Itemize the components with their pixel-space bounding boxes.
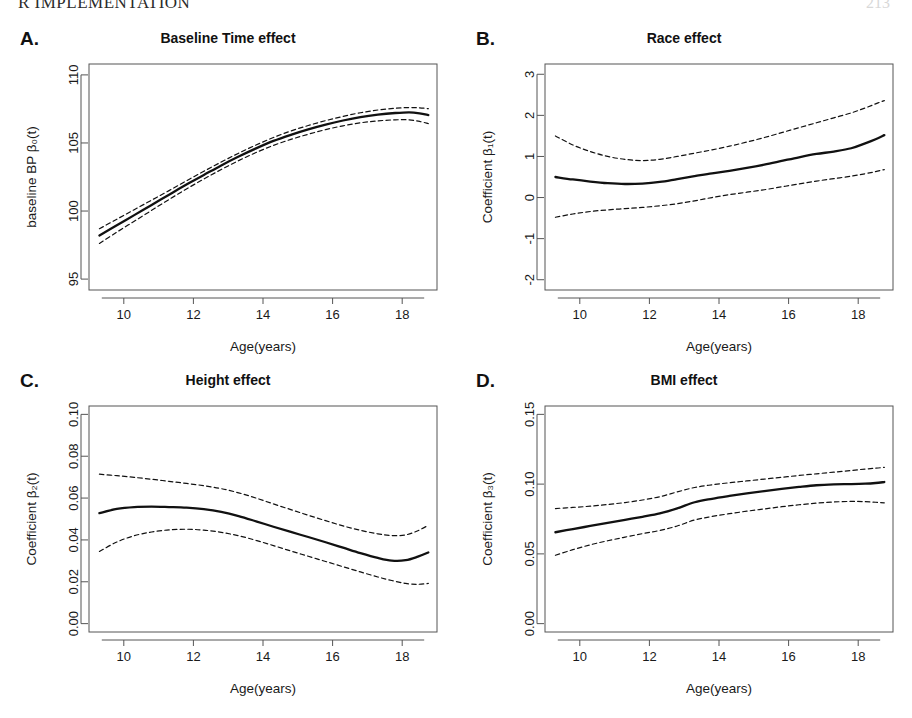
y-axis-tick-label: -2 (523, 274, 538, 286)
y-axis-tick-label: 0.05 (523, 541, 538, 566)
x-axis-tick-label: 12 (186, 649, 200, 664)
chart-panel-a: A. Baseline Time effect 9510010511010121… (0, 26, 456, 366)
x-axis-tick-label: 18 (395, 307, 409, 322)
y-axis-tick-label: 0.04 (67, 527, 82, 552)
series-lower-95 (555, 170, 884, 218)
y-axis-tick-label: -1 (523, 233, 538, 245)
series-lower-95 (99, 529, 428, 584)
series-lower-95 (555, 501, 884, 555)
chart-panel-d: D. BMI effect 0.000.050.100.151012141618… (456, 368, 912, 708)
x-axis-tick-label: 16 (325, 307, 339, 322)
chart-panel-c: C. Height effect 0.000.020.040.060.080.1… (0, 368, 456, 708)
x-axis-tick-label: 18 (395, 649, 409, 664)
x-axis-title: Age(years) (230, 339, 296, 354)
y-axis-tick-label: 0 (523, 194, 538, 201)
y-axis-tick-label: 0.15 (523, 402, 538, 427)
plot-area: 951001051101012141618Age(years)baseline … (0, 26, 456, 366)
x-axis-tick-label: 10 (117, 307, 131, 322)
y-axis-title: Coefficient β₁(t) (480, 131, 495, 223)
plot-area: -2-101231012141618Age(years)Coefficient … (456, 26, 912, 366)
y-axis-tick-label: 100 (67, 200, 82, 222)
x-axis-tick-label: 16 (325, 649, 339, 664)
y-axis-tick-label: 0.06 (67, 485, 82, 510)
x-axis-tick-label: 16 (781, 307, 795, 322)
series-estimate (555, 135, 884, 184)
page-number: 213 (866, 0, 890, 12)
x-axis-tick-label: 14 (256, 307, 270, 322)
plot-frame (89, 64, 437, 290)
y-axis-tick-label: 0.10 (67, 402, 82, 427)
y-axis-tick-label: 3 (523, 71, 538, 78)
x-axis-tick-label: 18 (851, 307, 865, 322)
y-axis-tick-label: 2 (523, 112, 538, 119)
series-estimate (99, 112, 428, 235)
y-axis-title: baseline BP β₀(t) (24, 126, 39, 228)
y-axis-tick-label: 0.08 (67, 444, 82, 469)
x-axis-tick-label: 14 (712, 649, 726, 664)
y-axis-tick-label: 0.00 (523, 611, 538, 636)
series-upper-95 (99, 474, 428, 535)
plot-frame (545, 64, 893, 290)
figure-page: R IMPLEMENTATION 213 A. Baseline Time ef… (0, 0, 912, 718)
x-axis-tick-label: 18 (851, 649, 865, 664)
plot-frame (89, 406, 437, 632)
x-axis-tick-label: 10 (573, 649, 587, 664)
y-axis-tick-label: 105 (67, 132, 82, 154)
plot-area: 0.000.020.040.060.080.101012141618Age(ye… (0, 368, 456, 708)
y-axis-title: Coefficient β₂(t) (24, 472, 39, 565)
plot-frame (545, 406, 893, 632)
y-axis-tick-label: 0.10 (523, 471, 538, 496)
y-axis-tick-label: 1 (523, 153, 538, 160)
y-axis-tick-label: 0.00 (67, 611, 82, 636)
x-axis-tick-label: 12 (642, 649, 656, 664)
x-axis-tick-label: 12 (642, 307, 656, 322)
x-axis-tick-label: 14 (256, 649, 270, 664)
x-axis-tick-label: 10 (573, 307, 587, 322)
series-estimate (555, 482, 884, 532)
x-axis-tick-label: 16 (781, 649, 795, 664)
x-axis-tick-label: 12 (186, 307, 200, 322)
x-axis-title: Age(years) (686, 339, 752, 354)
x-axis-title: Age(years) (686, 681, 752, 696)
y-axis-tick-label: 95 (67, 272, 82, 286)
y-axis-title: Coefficient β₃(t) (480, 472, 495, 565)
plot-area: 0.000.050.100.151012141618Age(years)Coef… (456, 368, 912, 708)
series-lower-95 (99, 120, 428, 244)
x-axis-tick-label: 14 (712, 307, 726, 322)
series-upper-95 (99, 108, 428, 229)
y-axis-tick-label: 0.02 (67, 569, 82, 594)
y-axis-tick-label: 110 (67, 65, 82, 86)
x-axis-tick-label: 10 (117, 649, 131, 664)
x-axis-title: Age(years) (230, 681, 296, 696)
chart-panel-b: B. Race effect -2-101231012141618Age(yea… (456, 26, 912, 366)
running-head: R IMPLEMENTATION (18, 0, 190, 13)
